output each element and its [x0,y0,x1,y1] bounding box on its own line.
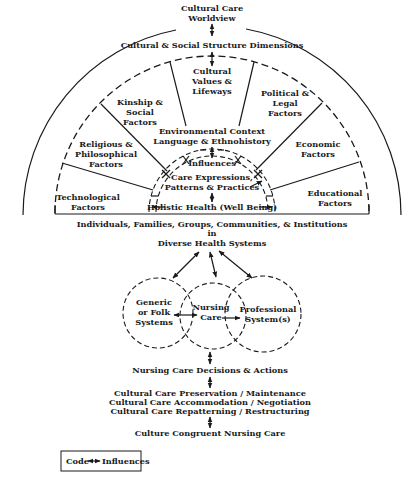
care-expressions-label: Care Expressions, [171,172,253,182]
svg-text:Care: Care [200,312,221,322]
svg-text:Factors: Factors [123,117,157,127]
svg-text:Social: Social [126,107,154,117]
factor-kinship: Kinship & Social Factors [117,97,163,127]
factor-cultural-values: Cultural Values & Lifeways [191,66,233,96]
structure-dimensions-label: Cultural & Social Structure Dimensions [121,40,304,50]
svg-text:Values &: Values & [191,76,233,86]
svg-text:Economic: Economic [296,139,341,149]
svg-text:Systems: Systems [135,317,173,327]
diverse-health-systems-label: Diverse Health Systems [158,238,267,248]
factor-economic: Economic Factors [296,139,341,159]
decisions-label: Nursing Care Decisions & Actions [132,365,288,375]
language-ethnohistory-label: Language & Ethnohistory [153,136,271,146]
svg-text:Factors: Factors [318,198,352,208]
factor-religious: Religious & Philosophical Factors [75,139,137,169]
factor-educational: Educational Factors [308,188,363,208]
factor-technological: Technological Factors [56,192,120,212]
svg-text:Lifeways: Lifeways [192,86,232,96]
factor-political: Political & Legal Factors [261,88,310,118]
svg-text:Educational: Educational [308,188,363,198]
svg-text:Political &: Political & [261,88,310,98]
arrow-to-nursing [210,252,216,277]
svg-text:Factors: Factors [71,202,105,212]
professional-systems-label: Professional System(s) [240,304,297,324]
svg-text:Factors: Factors [301,149,335,159]
title-cultural-care: Cultural Care [181,3,243,13]
divider-economic-educational [270,162,359,190]
sunrise-model-diagram: Cultural Care Worldview Cultural & Socia… [0,0,420,477]
svg-text:or Folk: or Folk [138,307,171,317]
holistic-health-label: Holistic Health (Well Being) [147,202,277,212]
svg-text:Factors: Factors [89,159,123,169]
individuals-in-label: in [207,228,216,238]
mode-repatterning: Cultural Care Repatterning / Restructuri… [110,406,309,416]
svg-text:Philosophical: Philosophical [75,149,137,159]
care-patterns-label: Patterns & Practices [165,182,260,192]
arrow-to-professional [219,251,252,278]
legend-code-label: Code [66,456,89,466]
legend-influences-label: Influences [102,456,150,466]
svg-text:Generic: Generic [136,297,172,307]
svg-text:Factors: Factors [268,108,302,118]
arrow-to-generic [173,252,199,278]
influences-label: Influences [188,158,236,168]
generic-systems-label: Generic or Folk Systems [135,297,173,327]
svg-text:Nursing: Nursing [192,302,229,312]
svg-text:Professional: Professional [240,304,297,314]
svg-text:Cultural: Cultural [193,66,231,76]
svg-text:Legal: Legal [272,98,297,108]
svg-text:Religious &: Religious & [79,139,133,149]
title-worldview: Worldview [187,13,236,23]
nursing-care-label: Nursing Care [192,302,229,322]
environmental-context-label: Environmental Context [159,126,265,136]
legend: Code Influences [61,451,150,471]
divider-values-left [170,62,186,126]
svg-text:Kinship &: Kinship & [117,97,163,107]
outcome-label: Culture Congruent Nursing Care [135,428,286,438]
svg-text:System(s): System(s) [245,314,290,324]
divider-values-right [239,62,254,126]
svg-text:Technological: Technological [56,192,120,202]
